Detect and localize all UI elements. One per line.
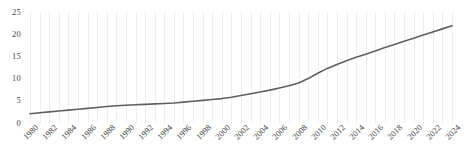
x-tick-label: 2002 <box>233 123 251 141</box>
x-tick-label: 1996 <box>175 123 193 141</box>
series-line-layer <box>30 12 452 123</box>
x-tick-label: 2014 <box>348 123 366 141</box>
series-1-line <box>30 26 452 114</box>
x-tick-label: 1980 <box>22 123 40 141</box>
x-tick-label: 2024 <box>444 123 462 141</box>
x-tick-label: 1984 <box>60 123 78 141</box>
y-tick-label: 15 <box>0 52 26 61</box>
x-tick-label: 2012 <box>329 123 347 141</box>
x-tick-label: 1992 <box>137 123 155 141</box>
x-tick-label: 2020 <box>405 123 423 141</box>
x-tick-label: 1998 <box>194 123 212 141</box>
x-tick-label: 1982 <box>41 123 59 141</box>
y-tick-label: 5 <box>0 96 26 105</box>
plot-area <box>30 12 452 123</box>
x-tick-label: 2018 <box>386 123 404 141</box>
x-axis: 1980198219841986198819901992199419961998… <box>0 123 464 163</box>
x-tick-label: 1990 <box>118 123 136 141</box>
x-tick-label: 2008 <box>290 123 308 141</box>
x-tick-label: 2010 <box>309 123 327 141</box>
line-chart: 0510152025 19801982198419861988199019921… <box>0 0 464 163</box>
y-tick-label: 20 <box>0 30 26 39</box>
x-tick-label: 2004 <box>252 123 270 141</box>
y-tick-label: 25 <box>0 8 26 17</box>
x-tick-label: 1994 <box>156 123 174 141</box>
x-tick-label: 1988 <box>98 123 116 141</box>
x-tick-label: 1986 <box>79 123 97 141</box>
gridline <box>452 12 453 123</box>
x-tick-label: 2022 <box>425 123 443 141</box>
x-tick-label: 2006 <box>271 123 289 141</box>
x-tick-label: 2000 <box>214 123 232 141</box>
x-tick-label: 2016 <box>367 123 385 141</box>
y-tick-label: 10 <box>0 74 26 83</box>
